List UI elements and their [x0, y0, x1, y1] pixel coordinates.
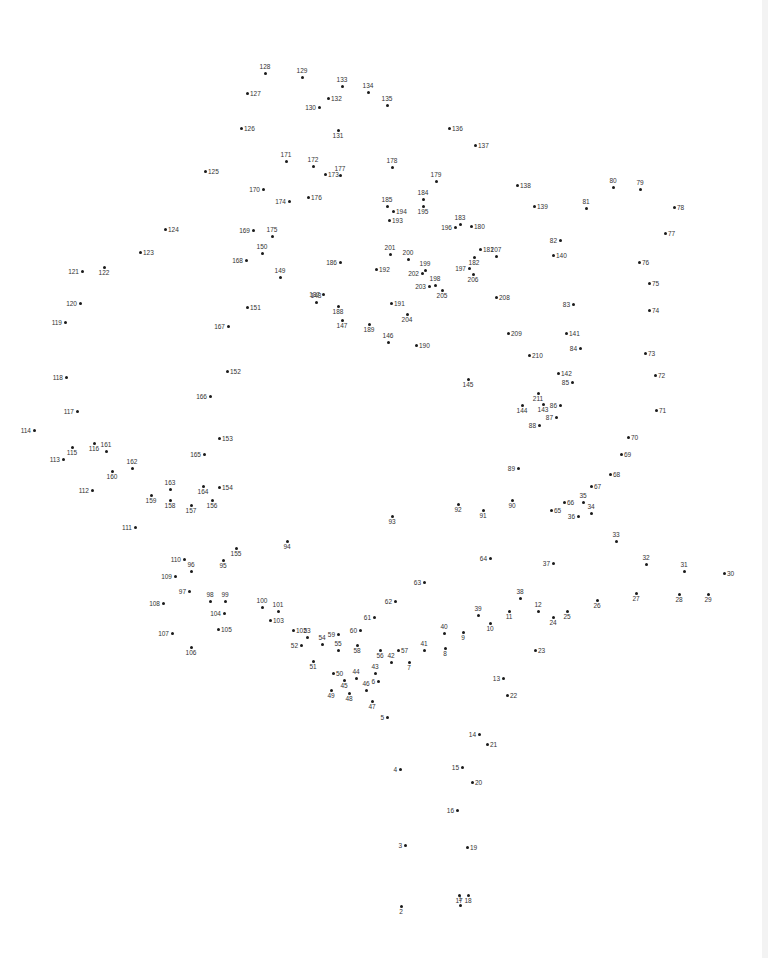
- point-number: 39: [474, 605, 481, 612]
- point-number: 207: [491, 246, 502, 253]
- point-number: 16: [447, 807, 454, 814]
- dot-icon: [516, 184, 519, 187]
- point-number: 128: [260, 63, 271, 70]
- page-edge: [762, 0, 768, 958]
- dot-icon: [341, 85, 344, 88]
- point-number: 180: [474, 223, 485, 230]
- point-number: 99: [221, 591, 228, 598]
- point-number: 51: [309, 663, 316, 670]
- point-number: 147: [337, 322, 348, 329]
- point-number: 146: [383, 332, 394, 339]
- dot-icon: [367, 91, 370, 94]
- point-number: 27: [632, 595, 639, 602]
- point-number: 59: [328, 631, 335, 638]
- point-number: 138: [520, 182, 531, 189]
- dot-icon: [399, 768, 402, 771]
- point-number: 135: [382, 95, 393, 102]
- point-number: 91: [479, 512, 486, 519]
- dot-icon: [477, 614, 480, 617]
- point-number: 21: [490, 741, 497, 748]
- point-number: 132: [331, 95, 342, 102]
- point-number: 174: [275, 198, 286, 205]
- dot-icon: [288, 200, 291, 203]
- point-number: 3: [398, 842, 402, 849]
- point-number: 89: [508, 465, 515, 472]
- dot-icon: [390, 302, 393, 305]
- point-number: 38: [516, 588, 523, 595]
- point-number: 74: [652, 307, 659, 314]
- point-number: 104: [210, 610, 221, 617]
- point-number: 67: [594, 483, 601, 490]
- point-number: 153: [222, 435, 233, 442]
- dot-icon: [271, 235, 274, 238]
- point-number: 19: [470, 844, 477, 851]
- point-number: 187: [309, 291, 320, 298]
- dot-icon: [559, 404, 562, 407]
- point-number: 28: [675, 596, 682, 603]
- dot-icon: [609, 473, 612, 476]
- point-number: 18: [464, 897, 471, 904]
- dot-icon: [169, 488, 172, 491]
- dot-icon: [264, 72, 267, 75]
- point-number: 108: [149, 600, 160, 607]
- point-number: 167: [214, 323, 225, 330]
- point-number: 58: [353, 647, 360, 654]
- point-number: 5: [380, 714, 384, 721]
- dot-icon: [218, 486, 221, 489]
- point-number: 40: [440, 623, 447, 630]
- point-number: 122: [99, 269, 110, 276]
- dot-icon: [312, 165, 315, 168]
- point-number: 166: [196, 393, 207, 400]
- point-number: 69: [624, 451, 631, 458]
- point-number: 77: [668, 230, 675, 237]
- dot-icon: [131, 467, 134, 470]
- dot-icon: [615, 540, 618, 543]
- point-number: 144: [517, 407, 528, 414]
- dot-icon: [397, 649, 400, 652]
- point-number: 13: [493, 675, 500, 682]
- dot-icon: [423, 581, 426, 584]
- point-number: 84: [570, 345, 577, 352]
- dot-icon: [76, 410, 79, 413]
- dot-icon: [374, 672, 377, 675]
- point-number: 129: [297, 67, 308, 74]
- point-number: 85: [562, 379, 569, 386]
- dot-icon: [423, 649, 426, 652]
- dot-icon: [389, 253, 392, 256]
- dot-icon: [479, 248, 482, 251]
- point-number: 194: [396, 208, 407, 215]
- point-number: 165: [190, 451, 201, 458]
- dot-icon: [443, 632, 446, 635]
- dot-icon: [387, 341, 390, 344]
- point-number: 8: [443, 650, 447, 657]
- dot-icon: [565, 332, 568, 335]
- dot-icon: [550, 509, 553, 512]
- dot-icon: [495, 296, 498, 299]
- point-number: 102: [296, 627, 307, 634]
- point-number: 82: [550, 237, 557, 244]
- point-number: 195: [418, 208, 429, 215]
- point-number: 20: [475, 779, 482, 786]
- dot-icon: [471, 781, 474, 784]
- dot-icon: [261, 606, 264, 609]
- dot-icon: [375, 268, 378, 271]
- point-number: 4: [393, 766, 397, 773]
- point-number: 98: [206, 591, 213, 598]
- dot-icon: [307, 196, 310, 199]
- point-number: 78: [677, 204, 684, 211]
- dot-icon: [209, 600, 212, 603]
- point-number: 97: [179, 588, 186, 595]
- point-number: 161: [101, 441, 112, 448]
- dot-icon: [506, 694, 509, 697]
- point-number: 130: [305, 104, 316, 111]
- point-number: 210: [532, 352, 543, 359]
- dot-icon: [407, 258, 410, 261]
- dot-icon: [435, 180, 438, 183]
- dot-icon: [355, 677, 358, 680]
- point-number: 34: [587, 503, 594, 510]
- dot-icon: [533, 205, 536, 208]
- dot-icon: [590, 485, 593, 488]
- dot-icon: [386, 716, 389, 719]
- point-number: 111: [122, 524, 132, 531]
- dot-icon: [252, 229, 255, 232]
